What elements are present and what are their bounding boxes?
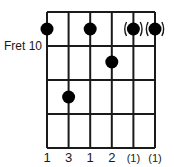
finger-dots — [41, 23, 162, 104]
fret-position-label: Fret 10 — [4, 39, 42, 53]
finger-label-string-1: 1 — [43, 150, 50, 165]
finger-dot-string-1 — [41, 23, 54, 36]
finger-dot-string-6 — [149, 23, 162, 36]
finger-label-string-5: (1) — [127, 152, 140, 164]
finger-label-string-2: 3 — [65, 150, 72, 165]
finger-label-string-3: 1 — [87, 150, 94, 165]
paren-right-string-6 — [162, 22, 164, 36]
paren-left-string-6 — [146, 22, 148, 36]
paren-left-string-5 — [125, 22, 127, 36]
finger-dot-string-5 — [127, 23, 140, 36]
finger-dot-string-3 — [84, 23, 97, 36]
finger-label-string-6: (1) — [148, 152, 161, 164]
finger-dot-string-4 — [105, 56, 118, 69]
finger-dot-string-2 — [62, 91, 75, 104]
fingering-labels: 1 3 1 2 (1) (1) — [43, 150, 161, 165]
finger-label-string-4: 2 — [108, 150, 115, 165]
chord-diagram: Fret 10 1 3 1 2 (1) (1) — [0, 0, 174, 167]
paren-right-string-5 — [140, 22, 142, 36]
